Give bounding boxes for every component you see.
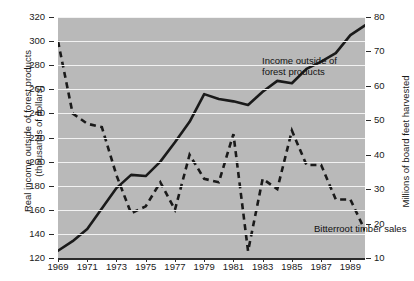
x-axis-tick-label: 1973 xyxy=(106,262,127,272)
income-annotation-line2: forest products xyxy=(262,66,337,77)
gridline xyxy=(58,17,365,18)
left-axis-tick-label: 320 xyxy=(0,12,54,22)
x-axis-tick-mark xyxy=(146,258,147,262)
left-axis-tick-mark xyxy=(49,113,54,114)
gridline xyxy=(58,89,365,90)
gridline xyxy=(58,162,365,163)
x-axis-tick-mark xyxy=(263,258,264,262)
right-axis-tick-label: 10 xyxy=(366,253,414,263)
gridline xyxy=(58,113,365,114)
x-axis-tick-label: 1989 xyxy=(340,262,361,272)
x-axis-tick-label: 1977 xyxy=(164,262,185,272)
right-axis-tick-mark xyxy=(366,17,371,18)
gridline xyxy=(58,65,365,66)
right-axis-tick-mark xyxy=(366,51,371,52)
left-axis-tick-mark xyxy=(49,138,54,139)
x-axis-tick-label: 1969 xyxy=(47,262,68,272)
x-axis-tick-mark xyxy=(58,258,59,262)
right-axis-tick-mark xyxy=(366,258,371,259)
right-axis-title: Millions of board feet harvested xyxy=(400,57,411,227)
x-axis-tick-label: 1983 xyxy=(252,262,273,272)
x-axis-tick-mark xyxy=(87,258,88,262)
right-axis-tick-label: 80 xyxy=(366,12,414,22)
x-axis-tick-mark xyxy=(233,258,234,262)
left-axis-tick-mark xyxy=(49,210,54,211)
right-axis-tick-mark xyxy=(366,86,371,87)
gridline xyxy=(58,138,365,139)
gridline xyxy=(58,41,365,42)
income-annotation: Income outside of forest products xyxy=(262,55,337,77)
x-axis-tick-mark xyxy=(292,258,293,262)
right-axis-tick-mark xyxy=(366,189,371,190)
gridline xyxy=(58,234,365,235)
x-axis-tick-mark xyxy=(175,258,176,262)
x-axis-tick-label: 1971 xyxy=(77,262,98,272)
x-axis-tick-mark xyxy=(116,258,117,262)
right-axis-tick-label: 70 xyxy=(366,46,414,56)
left-axis-tick-mark xyxy=(49,162,54,163)
left-axis-tick-label: 140 xyxy=(0,229,54,239)
gridline xyxy=(58,186,365,187)
left-axis-tick-mark xyxy=(49,41,54,42)
x-axis-tick-label: 1987 xyxy=(311,262,332,272)
left-axis-tick-mark xyxy=(49,186,54,187)
right-axis-tick-mark xyxy=(366,120,371,121)
left-axis-tick-mark xyxy=(49,17,54,18)
left-axis-title: Real income outside of forest products (… xyxy=(22,41,44,221)
x-axis-tick-label: 1975 xyxy=(135,262,156,272)
left-axis-title-line2: (thousands of dollars) xyxy=(33,41,44,221)
plot-area: Income outside of forest products Bitter… xyxy=(58,17,365,258)
left-axis-tick-mark xyxy=(49,89,54,90)
x-axis-rule xyxy=(58,258,365,260)
x-axis-tick-mark xyxy=(204,258,205,262)
left-axis-title-line1: Real income outside of forest products xyxy=(22,50,33,212)
x-axis-tick-label: 1985 xyxy=(281,262,302,272)
x-axis-tick-label: 1979 xyxy=(194,262,215,272)
left-axis-tick-mark xyxy=(49,258,54,259)
left-axis-tick-mark xyxy=(49,65,54,66)
left-axis-tick-label: 120 xyxy=(0,253,54,263)
x-axis-tick-mark xyxy=(350,258,351,262)
x-axis-tick-mark xyxy=(321,258,322,262)
gridline xyxy=(58,210,365,211)
timber-annotation: Bitterroot timber sales xyxy=(314,223,406,234)
left-axis-tick-mark xyxy=(49,234,54,235)
x-axis-tick-label: 1981 xyxy=(223,262,244,272)
right-axis-tick-mark xyxy=(366,155,371,156)
